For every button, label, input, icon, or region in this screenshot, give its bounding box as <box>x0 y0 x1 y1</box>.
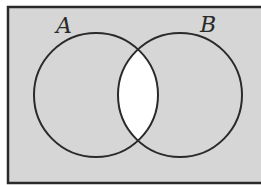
venn-diagram: A B <box>0 0 261 185</box>
set-b-label: B <box>199 12 216 37</box>
set-a-label: A <box>54 13 72 38</box>
